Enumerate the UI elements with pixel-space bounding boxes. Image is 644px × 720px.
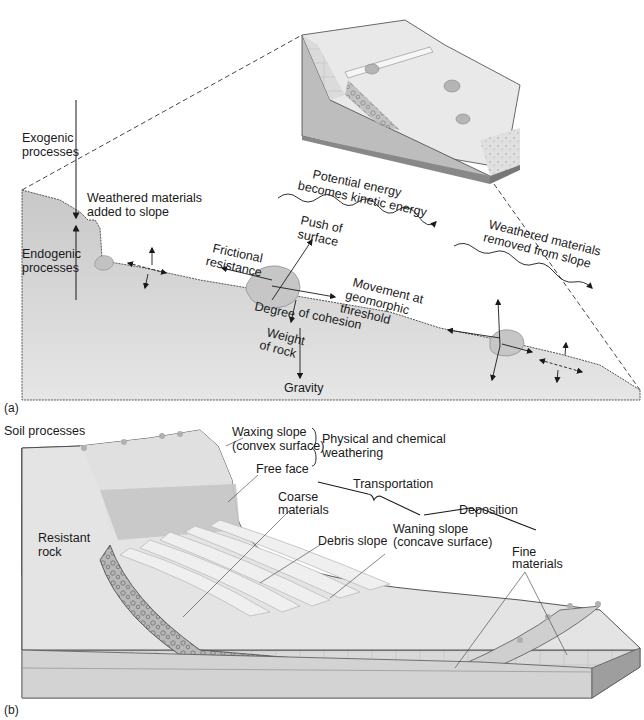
inset-slope-block: [302, 20, 520, 184]
free-face-label: Free face: [256, 462, 309, 476]
panel-a-label: (a): [4, 401, 19, 415]
projection-line-left: [22, 35, 302, 190]
push-of-surface-label: Push of surface: [296, 213, 347, 250]
transportation-label: Transportation: [353, 477, 433, 491]
coarse-materials-label: Coarse materials: [278, 490, 329, 517]
slope-processes-diagram: Exogenic processes Endogenic processes W…: [0, 0, 644, 720]
waxing-slope-label: Waxing slope (convex surface): [232, 425, 324, 453]
panel-b: Soil processes Waxing slope (convex surf…: [4, 424, 640, 717]
deposition-label: Deposition: [459, 503, 518, 517]
endogenic-label: Endogenic processes: [22, 247, 85, 275]
weathered-added-label: Weathered materials added to slope: [87, 191, 206, 219]
physical-chemical-label: Physical and chemical weathering: [321, 432, 449, 460]
exogenic-label: Exogenic processes: [22, 131, 79, 159]
soil-processes-label: Soil processes: [4, 424, 85, 438]
debris-slope-label: Debris slope: [318, 534, 388, 548]
potential-energy-label: Potential energy becomes kinetic energy: [297, 165, 432, 220]
right-boulder: [490, 330, 524, 356]
fine-materials-label: Fine materials: [512, 545, 563, 571]
panel-b-label: (b): [4, 703, 19, 717]
waning-slope-label: Waning slope (concave surface): [393, 522, 492, 549]
gravity-label: Gravity: [284, 381, 324, 395]
panel-a: Exogenic processes Endogenic processes W…: [4, 20, 640, 415]
weathered-removed-label: Weathered materials removed from slope: [482, 217, 606, 273]
tiny-up-arrow: [565, 343, 566, 355]
frictional-resistance-label: Frictional resistance: [205, 240, 268, 279]
